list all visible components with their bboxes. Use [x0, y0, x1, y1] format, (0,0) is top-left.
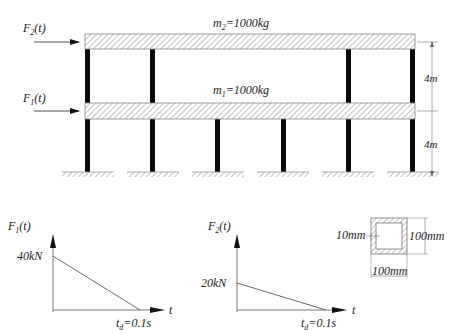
td-label: td=0.1s	[116, 316, 151, 332]
column-upper-2	[150, 49, 155, 103]
story-height-lower: 4m	[424, 138, 438, 150]
mass-label-m1: m1=1000kg	[213, 83, 269, 99]
beam-top	[85, 34, 415, 49]
load-plot-f2: F2(t) 20kN t td=0.1s	[201, 219, 356, 332]
force-label-f2: F2(t)	[22, 21, 46, 37]
x-axis-label: t	[352, 303, 356, 317]
column-lower-6	[410, 119, 415, 172]
y-axis-arrow-icon	[50, 234, 56, 248]
y-axis-arrow-icon	[234, 234, 240, 248]
column-lower-3	[215, 119, 220, 172]
load-curve	[237, 283, 326, 310]
x-axis-arrow-icon	[150, 307, 165, 313]
column-lower-5	[346, 119, 351, 172]
load-curve	[53, 256, 140, 310]
column-lower-4	[281, 119, 286, 172]
width-label: 100mm	[372, 264, 408, 278]
story-height-upper: 4m	[424, 72, 438, 84]
peak-label: 20kN	[201, 276, 227, 290]
load-plot-f1: F1(t) 40kN t td=0.1s	[7, 219, 173, 332]
column-lower-2	[150, 119, 155, 172]
peak-label: 40kN	[17, 249, 43, 263]
beam-bottom	[85, 103, 415, 119]
column-cross-section: 10mm 100mm 100mm	[336, 218, 445, 278]
column-upper-1	[85, 49, 90, 103]
frame-structure: F2(t) F1(t) m2=1000kg m1=1000kg 4m 4m	[22, 16, 439, 177]
ground-supports	[62, 172, 439, 177]
plot-ylabel: F1(t)	[7, 219, 31, 235]
x-axis-label: t	[169, 303, 173, 317]
column-upper-3	[346, 49, 351, 103]
plot-ylabel: F2(t)	[207, 219, 231, 235]
story-height-dimensions: 4m 4m	[417, 42, 438, 176]
mass-label-m2: m2=1000kg	[213, 16, 269, 32]
thickness-label: 10mm	[336, 228, 366, 242]
x-axis-arrow-icon	[332, 307, 347, 313]
column-upper-4	[410, 49, 415, 103]
td-label: td=0.1s	[301, 316, 336, 332]
height-label: 100mm	[409, 229, 445, 243]
column-lower-1	[85, 119, 90, 172]
force-label-f1: F1(t)	[22, 91, 46, 107]
